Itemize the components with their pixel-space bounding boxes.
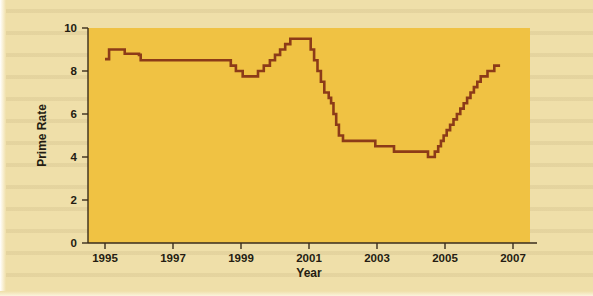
y-axis-tick-label: 2: [71, 194, 77, 206]
figure-page: 0246810 1995199719992001200320052007 Pri…: [0, 0, 593, 296]
y-axis-title: Prime Rate: [35, 104, 49, 167]
y-axis-tick-label: 6: [71, 108, 77, 120]
x-axis-tick-labels: 1995199719992001200320052007: [92, 252, 526, 264]
prime-rate-chart: 0246810 1995199719992001200320052007 Pri…: [0, 0, 593, 296]
chart-svg: 0246810 1995199719992001200320052007 Pri…: [0, 0, 593, 296]
y-axis-tick-label: 0: [71, 237, 77, 249]
y-axis-tick-label: 4: [71, 151, 78, 163]
x-axis-tick-label: 2007: [500, 252, 526, 264]
x-axis-tick-label: 1995: [92, 252, 118, 264]
y-axis-ticks: [82, 28, 88, 243]
x-axis-tick-label: 1999: [228, 252, 254, 264]
y-axis-tick-label: 10: [64, 22, 77, 34]
x-axis-tick-label: 2003: [364, 252, 390, 264]
x-axis-title: Year: [296, 266, 322, 280]
x-axis-tick-label: 2005: [432, 252, 458, 264]
y-axis-tick-label: 8: [71, 65, 78, 77]
x-axis-ticks: [105, 243, 513, 249]
x-axis-tick-label: 1997: [160, 252, 186, 264]
y-axis-tick-labels: 0246810: [64, 22, 77, 249]
x-axis-tick-label: 2001: [296, 252, 322, 264]
